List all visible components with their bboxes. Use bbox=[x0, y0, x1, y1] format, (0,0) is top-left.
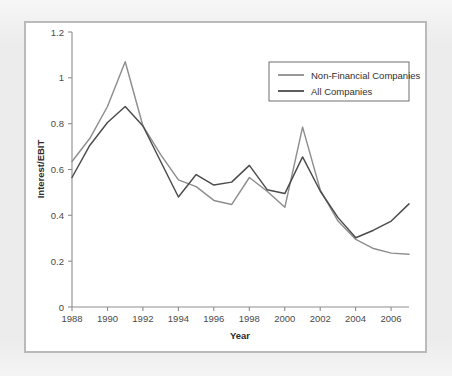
y-tick-label: 0.8 bbox=[51, 118, 64, 129]
x-tick-label: 1988 bbox=[61, 313, 82, 324]
y-tick-label: 0.4 bbox=[51, 210, 64, 221]
y-axis-ticks: 0 0.2 0.4 0.6 0.8 1 1.2 bbox=[51, 27, 72, 313]
figure-page: 0 0.2 0.4 0.6 0.8 1 1.2 1988 bbox=[0, 0, 452, 376]
x-tick-label: 2002 bbox=[310, 313, 331, 324]
x-axis-title: Year bbox=[230, 330, 250, 341]
figure-panel: 0 0.2 0.4 0.6 0.8 1 1.2 1988 bbox=[24, 21, 427, 353]
x-tick-label: 1996 bbox=[203, 313, 224, 324]
x-tick-label: 2004 bbox=[345, 313, 366, 324]
y-tick-label: 1 bbox=[59, 72, 64, 83]
y-tick-label: 0.2 bbox=[51, 256, 64, 267]
x-tick-label: 2006 bbox=[381, 313, 402, 324]
x-tick-label: 2000 bbox=[274, 313, 295, 324]
legend-label-all-companies: All Companies bbox=[311, 86, 372, 97]
chart-legend: Non-Financial Companies All Companies bbox=[269, 62, 421, 101]
y-tick-label: 0 bbox=[59, 302, 64, 313]
x-axis-ticks: 1988 1990 1992 1994 1996 1998 2000 2002 … bbox=[61, 307, 401, 324]
legend-label-non-financial-companies: Non-Financial Companies bbox=[311, 70, 421, 81]
y-tick-label: 0.6 bbox=[51, 164, 64, 175]
x-tick-label: 1994 bbox=[168, 313, 189, 324]
line-chart: 0 0.2 0.4 0.6 0.8 1 1.2 1988 bbox=[26, 23, 425, 351]
x-tick-label: 1998 bbox=[239, 313, 260, 324]
y-axis-title: Interest/EBIT bbox=[35, 140, 46, 199]
series-line-all-companies bbox=[72, 106, 409, 237]
x-tick-label: 1990 bbox=[97, 313, 118, 324]
y-tick-label: 1.2 bbox=[51, 27, 64, 38]
x-tick-label: 1992 bbox=[132, 313, 153, 324]
